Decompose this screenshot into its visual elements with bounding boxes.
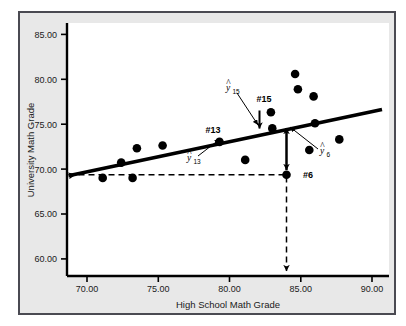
data-point (291, 70, 300, 79)
data-point (241, 156, 250, 165)
point-label-6: #6 (303, 170, 313, 180)
data-point (128, 174, 137, 183)
figure-container: 85.00 80.00 75.00 70.00 65.00 60.00 70.0… (0, 0, 406, 326)
data-point (305, 146, 314, 155)
x-tick-label-85: 85.00 (290, 284, 313, 294)
data-point (294, 85, 303, 94)
y-tick-label-65: 65.00 (34, 209, 57, 219)
data-point (98, 174, 107, 183)
x-axis-title: High School Math Grade (176, 299, 280, 310)
data-point-13 (215, 138, 224, 147)
data-point-6 (282, 170, 291, 179)
data-point (335, 135, 344, 144)
x-tick-label-70: 70.00 (76, 284, 99, 294)
yhat-15-subscript: 15 (233, 88, 241, 95)
data-point (117, 158, 126, 167)
y-tick-label-70: 70.00 (34, 165, 57, 175)
x-tick-label-90: 90.00 (361, 284, 384, 294)
data-point-15 (267, 108, 276, 117)
x-axis-tick-labels: 70.00 75.00 80.00 85.00 90.00 (76, 284, 384, 294)
yhat-13-subscript: 13 (194, 158, 202, 165)
yhat-6-subscript: 6 (327, 151, 331, 158)
x-tick-label-75: 75.00 (147, 284, 170, 294)
data-point (133, 144, 142, 153)
plot-area-background (67, 23, 389, 276)
scatter-plot: 85.00 80.00 75.00 70.00 65.00 60.00 70.0… (0, 0, 406, 326)
data-point (158, 141, 167, 150)
y-tick-label-60: 60.00 (34, 254, 57, 264)
y-axis-title: University Math Grade (25, 103, 36, 198)
point-label-13: #13 (205, 125, 220, 135)
x-tick-label-80: 80.00 (218, 284, 241, 294)
data-point (268, 124, 277, 133)
y-tick-label-85: 85.00 (34, 30, 57, 40)
point-label-15: #15 (256, 94, 271, 104)
data-point (309, 92, 318, 101)
y-axis-tick-labels: 85.00 80.00 75.00 70.00 65.00 60.00 (34, 30, 57, 264)
y-tick-label-75: 75.00 (34, 120, 57, 130)
y-tick-label-80: 80.00 (34, 75, 57, 85)
data-point (311, 119, 320, 128)
